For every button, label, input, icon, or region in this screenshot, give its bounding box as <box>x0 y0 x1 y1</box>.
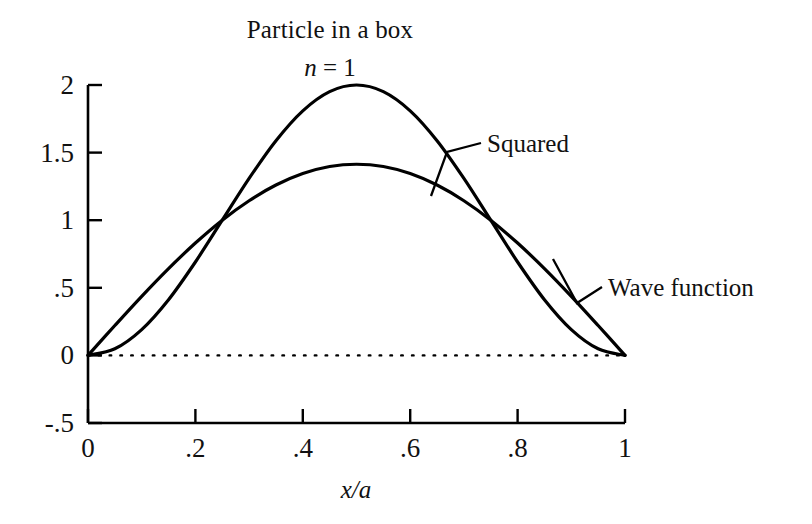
y-tick-label: .5 <box>0 275 74 302</box>
x-tick-label: 0 <box>81 435 95 462</box>
x-tick-label: .8 <box>507 435 527 462</box>
annotation-wave-function: Wave function <box>608 275 754 300</box>
annotation-squared: Squared <box>487 131 569 156</box>
x-axis-ticks <box>88 409 625 423</box>
chart-figure: Particle in a box n = 1 21.51.50-.5 0.2.… <box>0 0 812 524</box>
x-tick-label: .2 <box>185 435 205 462</box>
y-tick-label: 1.5 <box>0 140 74 167</box>
chart-subtitle: n = 1 <box>304 55 356 80</box>
leader-line-wave-function <box>553 259 602 303</box>
x-tick-label: .4 <box>293 435 313 462</box>
y-tick-label: 1 <box>0 207 74 234</box>
series-curve-squared <box>88 85 625 355</box>
x-axis-label: x/a <box>341 477 372 502</box>
chart-title: Particle in a box <box>247 17 414 42</box>
y-tick-label: 0 <box>0 342 74 369</box>
subtitle-n-symbol: n <box>304 54 317 81</box>
y-axis-ticks <box>88 85 102 423</box>
subtitle-equation: = 1 <box>317 54 356 81</box>
y-tick-label: -.5 <box>0 410 74 437</box>
data-series-group <box>88 85 625 355</box>
y-tick-label: 2 <box>0 72 74 99</box>
x-tick-label: .6 <box>400 435 420 462</box>
x-tick-label: 1 <box>618 435 632 462</box>
series-curve-wave-function <box>88 164 625 355</box>
